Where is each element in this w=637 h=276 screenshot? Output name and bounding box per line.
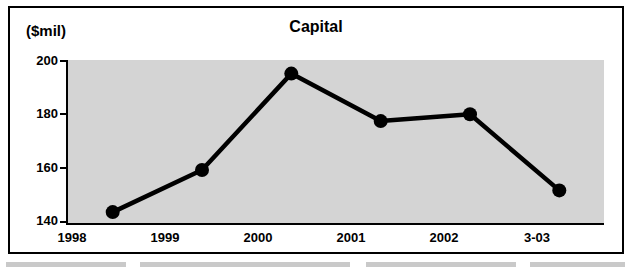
artifact-segment xyxy=(140,262,350,267)
data-point-marker xyxy=(463,107,477,121)
y-tick-label-160: 160 xyxy=(18,160,58,175)
x-tick-label-2002: 2002 xyxy=(409,230,479,245)
line-series-svg xyxy=(68,60,604,223)
y-tick-label-200: 200 xyxy=(18,53,58,68)
data-point-marker xyxy=(552,183,566,197)
x-tick-label-2000: 2000 xyxy=(223,230,293,245)
x-tick-label-3-03: 3-03 xyxy=(502,230,572,245)
chart-title: Capital xyxy=(10,18,622,36)
x-tick-label-2001: 2001 xyxy=(316,230,386,245)
data-point-marker xyxy=(374,114,388,128)
data-point-marker xyxy=(195,163,209,177)
page-bottom-artifact-strip xyxy=(0,258,637,276)
x-tick-label-1999: 1999 xyxy=(130,230,200,245)
data-point-marker xyxy=(106,205,120,219)
artifact-segment xyxy=(530,262,625,267)
artifact-segment xyxy=(366,262,516,267)
x-tick-label-1998: 1998 xyxy=(37,230,107,245)
chart-card: ($mil) Capital 200 180 160 140 1998 1999… xyxy=(8,6,624,254)
data-point-marker xyxy=(284,67,298,81)
y-tick-label-180: 180 xyxy=(18,106,58,121)
artifact-segment xyxy=(6,262,126,267)
y-tick-label-140: 140 xyxy=(18,213,58,228)
plot-area xyxy=(66,60,604,225)
